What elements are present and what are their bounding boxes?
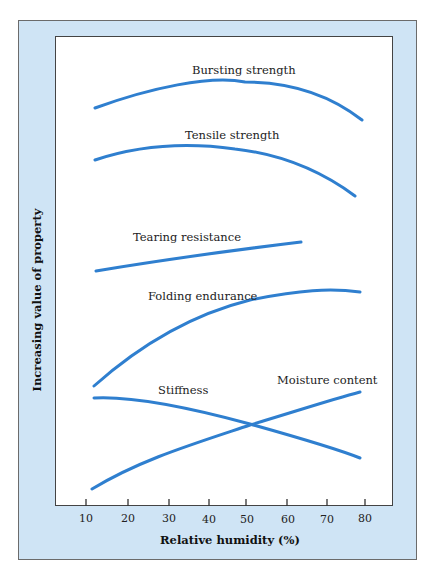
curve-stiffness	[94, 398, 360, 458]
label-stiffness: Stiffness	[158, 383, 208, 397]
x-tick-60: 60	[281, 513, 295, 526]
curve-tearing-resistance	[96, 242, 301, 271]
x-tick-30: 30	[162, 512, 176, 525]
x-axis-ticks	[86, 499, 365, 506]
x-tick-40: 40	[202, 513, 216, 526]
label-moisture-content: Moisture content	[277, 373, 378, 387]
x-tick-10: 10	[79, 512, 93, 525]
x-axis-title: Relative humidity (%)	[160, 533, 300, 547]
y-axis-title: Increasing value of property	[30, 208, 44, 391]
curve-folding-endurance	[94, 290, 360, 386]
label-tearing-resistance: Tearing resistance	[133, 230, 241, 244]
x-tick-50: 50	[240, 513, 254, 526]
label-folding-endurance: Folding endurance	[148, 289, 258, 303]
label-tensile-strength: Tensile strength	[185, 128, 280, 142]
x-tick-80: 80	[358, 512, 372, 525]
curve-bursting-strength	[95, 80, 362, 120]
chart-svg: Bursting strength Tensile strength Teari…	[0, 0, 431, 572]
curve-tensile-strength	[95, 145, 355, 196]
x-tick-20: 20	[121, 512, 135, 525]
curve-moisture-content	[92, 392, 360, 489]
label-bursting-strength: Bursting strength	[192, 63, 296, 77]
x-tick-70: 70	[320, 513, 334, 526]
